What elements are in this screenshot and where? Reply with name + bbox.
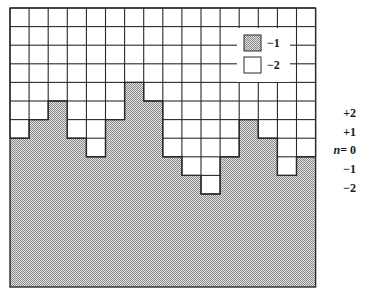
level-label-minus2: −2 [343,181,356,196]
legend-label-white: −2 [267,58,280,73]
lattice-diagram [0,0,368,305]
level-label-zero: n= 0 [333,143,356,158]
level-label-minus1: −1 [343,162,356,177]
legend [237,28,290,82]
legend-swatch-shaded [244,35,261,51]
legend-swatch-white [244,57,261,73]
level-label-plus2: +2 [343,106,356,121]
legend-label-shaded: −1 [267,36,280,51]
level-label-plus1: +1 [343,125,356,140]
level-value-zero: = 0 [340,143,356,157]
